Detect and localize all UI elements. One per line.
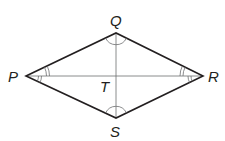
rhombus-pqrs	[26, 33, 203, 118]
vertex-label-q: Q	[110, 12, 122, 29]
angle-mark-r	[180, 66, 192, 82]
vertex-label-s: S	[110, 123, 120, 140]
rhombus-diagram: P Q R S T	[0, 0, 225, 141]
vertex-label-p: P	[8, 68, 18, 85]
intersection-label-t: T	[100, 78, 111, 95]
vertex-label-r: R	[208, 68, 219, 85]
